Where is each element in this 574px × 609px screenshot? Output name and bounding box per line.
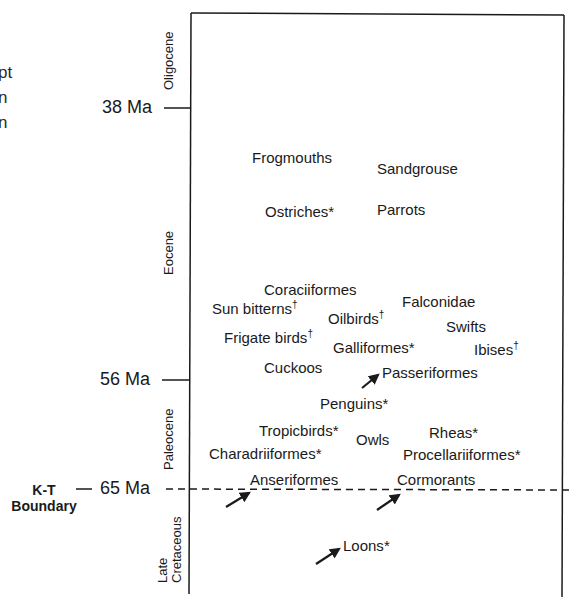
taxon-swifts: Swifts bbox=[446, 318, 486, 335]
taxon-penguins: Penguins* bbox=[320, 395, 388, 412]
kt-boundary-label: K-T Boundary bbox=[4, 482, 84, 514]
time-label-38ma: 38 Ma bbox=[102, 97, 152, 118]
taxon-frogmouths: Frogmouths bbox=[252, 149, 332, 166]
taxon-galliformes: Galliformes* bbox=[333, 339, 415, 356]
taxon-procellariiformes: Procellariiformes* bbox=[403, 446, 521, 463]
arrow-icon-passeriformes bbox=[362, 375, 378, 388]
taxon-loons: Loons* bbox=[343, 537, 390, 554]
arrow-icon-loons bbox=[316, 549, 339, 564]
taxon-falconidae: Falconidae bbox=[402, 293, 475, 310]
taxon-cuckoos: Cuckoos bbox=[264, 359, 322, 376]
taxon-sun-bitterns: Sun bitterns† bbox=[212, 300, 298, 317]
taxon-parrots: Parrots bbox=[377, 201, 425, 218]
kt-label-line-2: Boundary bbox=[4, 498, 84, 514]
epoch-paleocene: Paleocene bbox=[161, 409, 176, 470]
taxon-ibises: Ibises† bbox=[474, 341, 519, 358]
kt-boundary-line bbox=[166, 489, 573, 490]
epoch-late: Late bbox=[155, 558, 170, 583]
taxon-frigate-birds: Frigate birds† bbox=[224, 329, 313, 346]
taxon-passeriformes: Passeriformes bbox=[382, 364, 478, 381]
taxon-sandgrouse: Sandgrouse bbox=[377, 160, 458, 177]
arrow-icon-anseriformes bbox=[226, 493, 249, 507]
taxon-charadriiformes: Charadriiformes* bbox=[209, 445, 322, 462]
taxon-ostriches: Ostriches* bbox=[265, 203, 334, 220]
taxon-cormorants: Cormorants bbox=[397, 471, 475, 488]
epoch-oligocene: Oligocene bbox=[161, 31, 176, 90]
taxon-coraciiformes: Coraciiformes bbox=[264, 281, 357, 298]
epoch-eocene: Eocene bbox=[161, 231, 176, 275]
taxon-owls: Owls bbox=[356, 431, 389, 448]
time-label-56ma: 56 Ma bbox=[100, 369, 150, 390]
taxon-tropicbirds: Tropicbirds* bbox=[259, 422, 338, 439]
arrow-icon-cormorants bbox=[377, 495, 399, 510]
epoch-cretaceous: Cretaceous bbox=[169, 517, 184, 583]
taxon-anseriformes: Anseriformes bbox=[250, 471, 338, 488]
taxon-rheas: Rheas* bbox=[429, 424, 478, 441]
time-label-65ma: 65 Ma bbox=[100, 478, 150, 499]
taxon-oilbirds: Oilbirds† bbox=[328, 310, 384, 327]
kt-label-line-1: K-T bbox=[4, 482, 84, 498]
